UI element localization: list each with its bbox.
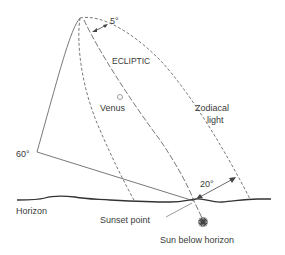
sunset-pointer (166, 203, 192, 217)
sixty-degree-side (37, 18, 80, 152)
light-label: light (207, 115, 224, 125)
arrowhead-icon (229, 177, 236, 183)
horizon-label: Horizon (16, 206, 47, 216)
zodiacal-light-diagram: 5° ECLIPTIC Venus Zodiacal light 60° 20°… (0, 0, 285, 255)
sun-below-horizon-label: Sun below horizon (160, 235, 234, 245)
sunset-point-label: Sunset point (100, 215, 151, 225)
venus-label: Venus (100, 103, 126, 113)
sun-star-icon (198, 217, 208, 227)
arrowhead-icon (103, 24, 108, 28)
arrowhead-icon (196, 194, 203, 199)
ecliptic-line (84, 20, 203, 220)
sixty-degree-label: 60° (16, 149, 30, 159)
ecliptic-label: ECLIPTIC (112, 56, 150, 66)
venus-marker-icon (118, 95, 123, 100)
horizon-line (17, 196, 271, 202)
arrowhead-icon (92, 28, 97, 32)
zodiacal-label: Zodiacal (195, 103, 229, 113)
five-degree-label: 5° (110, 16, 119, 26)
sixty-degree-baseline (37, 152, 194, 201)
twenty-degree-label: 20° (200, 179, 214, 189)
